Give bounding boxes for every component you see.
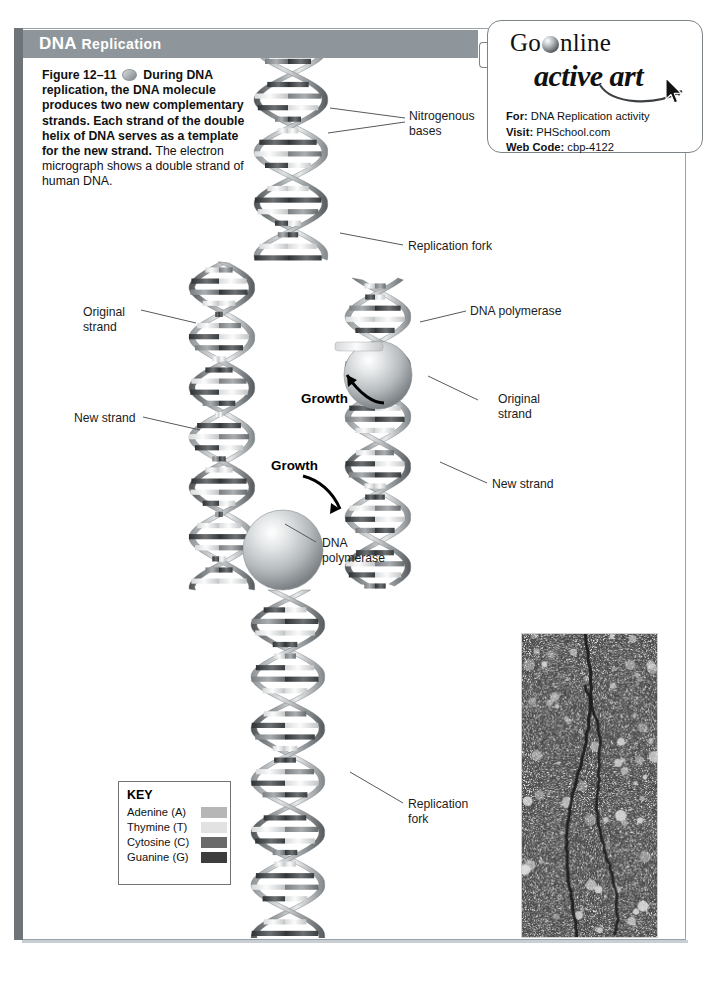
key-color-swatch	[201, 837, 227, 848]
go-online-visit-row: Visit: PHSchool.com	[506, 125, 650, 141]
callout-line-2: fork	[408, 812, 498, 827]
electron-micrograph	[521, 633, 658, 938]
active-art-dot-icon	[122, 69, 137, 81]
callout-line-1: DNA	[322, 536, 412, 551]
key-color-swatch	[201, 852, 227, 863]
callout-replication-fork-top: Replication fork	[408, 239, 528, 254]
key-color-swatch	[201, 822, 227, 833]
key-label: Guanine (G)	[127, 851, 201, 863]
key-rows: Adenine (A)Thymine (T)Cytosine (C)Guanin…	[127, 806, 230, 863]
key-label: Adenine (A)	[127, 806, 201, 818]
callout-line-1: DNA polymerase	[470, 304, 600, 319]
go-online-webcode-label: Web Code:	[506, 141, 564, 153]
callout-replication-fork-bottom: Replication fork	[408, 797, 498, 826]
key-row: Thymine (T)	[127, 821, 230, 833]
key-row: Guanine (G)	[127, 851, 230, 863]
key-color-swatch	[201, 807, 227, 818]
key-legend: KEY Adenine (A)Thymine (T)Cytosine (C)Gu…	[118, 781, 231, 885]
callout-line-2: polymerase	[322, 551, 412, 566]
page-frame-shadow	[22, 940, 688, 943]
callout-line-2: strand	[83, 320, 163, 335]
callout-dna-polymerase-right: DNA polymerase	[470, 304, 600, 319]
go-online-for-label: For:	[506, 110, 528, 122]
go-online-box[interactable]: Gonline active art For: DNA Replication …	[487, 20, 703, 153]
callout-new-strand-left: New strand	[74, 411, 154, 426]
key-row: Adenine (A)	[127, 806, 230, 818]
go-online-wordmark: Gonline	[510, 29, 611, 57]
callout-nitrogenous-bases: Nitrogenous bases	[409, 109, 499, 138]
callout-line-1: New strand	[492, 477, 592, 492]
mouse-cursor-icon	[664, 77, 684, 105]
key-label: Cytosine (C)	[127, 836, 201, 848]
go-online-info: For: DNA Replication activity Visit: PHS…	[506, 109, 650, 156]
callout-line-1: Nitrogenous	[409, 109, 499, 124]
callout-line-2: bases	[409, 124, 499, 139]
online-sphere-icon	[542, 36, 559, 53]
key-title: KEY	[127, 788, 230, 802]
figure-number: Figure 12–11	[42, 68, 117, 82]
growth-arrow-up-left-icon	[330, 365, 390, 410]
growth-label-lower: Growth	[271, 458, 318, 473]
callout-line-2: strand	[498, 407, 578, 422]
section-header-band: DNA Replication	[23, 30, 478, 58]
page-title-main: DNA	[39, 34, 76, 53]
page-left-edge-bar	[14, 28, 23, 940]
callout-line-1: Replication fork	[408, 239, 528, 254]
callout-line-1: Original	[83, 305, 163, 320]
growth-arrow-down-right-icon	[299, 472, 354, 520]
callout-line-1: Replication	[408, 797, 498, 812]
figure-caption: Figure 12–11 During DNA replication, the…	[42, 68, 254, 190]
page-title: DNA Replication	[23, 34, 161, 54]
callout-new-strand-right: New strand	[492, 477, 592, 492]
go-online-visit-label: Visit:	[506, 126, 533, 138]
key-label: Thymine (T)	[127, 821, 201, 833]
go-online-webcode-row: Web Code: cbp-4122	[506, 140, 650, 156]
callout-line-1: Original	[498, 392, 578, 407]
callout-dna-polymerase-left: DNA polymerase	[322, 536, 412, 565]
go-online-for-row: For: DNA Replication activity	[506, 109, 650, 125]
go-online-go-text: Go	[510, 29, 541, 56]
callout-original-strand-left: Original strand	[83, 305, 163, 334]
go-online-online-text: nline	[560, 29, 611, 56]
key-row: Cytosine (C)	[127, 836, 230, 848]
callout-line-1: New strand	[74, 411, 154, 426]
go-online-for-value: DNA Replication activity	[531, 110, 650, 122]
go-online-webcode-value: cbp-4122	[567, 141, 614, 153]
callout-original-strand-right: Original strand	[498, 392, 578, 421]
go-online-visit-value[interactable]: PHSchool.com	[536, 126, 610, 138]
page-title-rest: Replication	[82, 36, 162, 52]
